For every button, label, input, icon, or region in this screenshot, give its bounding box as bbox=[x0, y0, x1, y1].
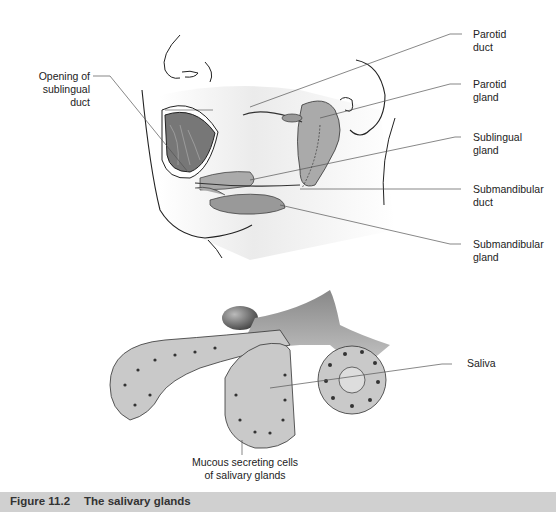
label-line: Submandibular bbox=[473, 183, 544, 196]
label-line: duct bbox=[473, 196, 544, 209]
label-sublingual-gland: Sublingual gland bbox=[473, 131, 522, 157]
label-line: Saliva bbox=[467, 357, 496, 370]
label-line: Sublingual bbox=[473, 131, 522, 144]
label-line: gland bbox=[473, 251, 544, 264]
label-line: Submandibular bbox=[473, 238, 544, 251]
label-line: Parotid bbox=[473, 78, 506, 91]
label-mucous-cells: Mucous secreting cells of salivary gland… bbox=[180, 456, 310, 482]
label-submandibular-duct: Submandibular duct bbox=[473, 183, 544, 209]
label-line: of salivary glands bbox=[180, 469, 310, 482]
label-line: sublingual bbox=[30, 83, 90, 96]
figure-number: Figure 11.2 bbox=[10, 495, 70, 507]
label-parotid-gland: Parotid gland bbox=[473, 78, 506, 104]
label-opening-sublingual-duct: Opening of sublingual duct bbox=[30, 70, 90, 109]
label-line: duct bbox=[473, 41, 506, 54]
figure-title: The salivary glands bbox=[84, 495, 191, 507]
label-line: duct bbox=[30, 96, 90, 109]
label-saliva: Saliva bbox=[467, 357, 496, 370]
figure-caption-bar: Figure 11.2 The salivary glands bbox=[0, 492, 556, 512]
label-line: gland bbox=[473, 91, 506, 104]
label-line: Mucous secreting cells bbox=[180, 456, 310, 469]
label-line: gland bbox=[473, 144, 522, 157]
label-line: Opening of bbox=[30, 70, 90, 83]
label-parotid-duct: Parotid duct bbox=[473, 28, 506, 54]
label-submandibular-gland: Submandibular gland bbox=[473, 238, 544, 264]
label-line: Parotid bbox=[473, 28, 506, 41]
